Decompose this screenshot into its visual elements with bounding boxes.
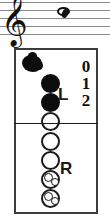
right-hand-label: R [60, 160, 72, 177]
hole-5 [41, 151, 60, 170]
fingering-chart: L R 0 1 2 [14, 48, 98, 214]
hole-7 [41, 189, 60, 208]
hole-3 [41, 112, 60, 131]
finger-number-1: 1 [78, 75, 94, 92]
treble-clef-icon: 𝄞 [1, 0, 28, 42]
music-notation-staff: 𝄞 [0, 0, 110, 44]
finger-number-2: 2 [78, 92, 94, 109]
hole-6-pair-right [51, 178, 59, 186]
hole-7-pair-right [51, 197, 59, 205]
hole-6 [41, 170, 60, 189]
thumb-hole [22, 55, 42, 72]
left-hand-label: L [58, 86, 68, 103]
hand-divider-line [14, 123, 98, 124]
finger-number-0: 0 [78, 58, 94, 75]
finger-number-list: 0 1 2 [78, 58, 94, 109]
note-head [57, 7, 70, 16]
hole-4 [41, 132, 60, 151]
whole-note [57, 7, 71, 17]
